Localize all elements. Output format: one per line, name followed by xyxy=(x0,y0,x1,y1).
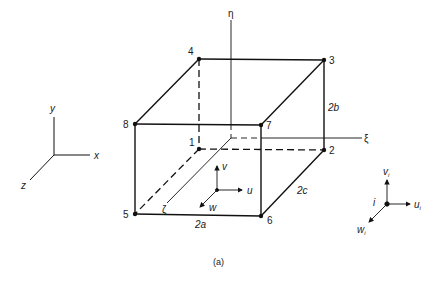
v-label: v xyxy=(222,161,228,172)
global-z-label: z xyxy=(20,180,26,191)
ui-label: ui xyxy=(414,199,422,211)
natural-axes xyxy=(231,20,362,138)
node-label-5: 5 xyxy=(123,209,129,220)
element-hidden-edges xyxy=(135,59,324,214)
hexahedral-element-figure: y x z η ξ ζ 1 xyxy=(0,0,441,285)
node-label-8: 8 xyxy=(123,119,129,130)
u-label: u xyxy=(247,185,253,196)
node-label-2: 2 xyxy=(329,145,335,156)
node-label-7: 7 xyxy=(266,120,272,131)
wi-label: wi xyxy=(357,224,366,236)
global-axes xyxy=(30,117,90,180)
node-label-4: 4 xyxy=(188,46,194,57)
node-label-6: 6 xyxy=(267,215,273,226)
node-i-label: i xyxy=(373,197,376,208)
vi-label: vi xyxy=(383,166,390,178)
w-label: w xyxy=(209,202,217,213)
node-label-1: 1 xyxy=(189,137,195,148)
natural-axes-hidden xyxy=(231,124,261,138)
interior-displacements xyxy=(200,166,242,207)
element-visible-edges xyxy=(135,59,324,216)
node-label-3: 3 xyxy=(329,55,335,66)
xi-label: ξ xyxy=(364,133,369,145)
figure-caption: (a) xyxy=(213,257,224,267)
global-y-label: y xyxy=(49,103,56,114)
zeta-label: ζ xyxy=(162,204,167,216)
dimension-2c: 2c xyxy=(296,185,308,196)
global-x-label: x xyxy=(93,150,100,161)
dimension-2b: 2b xyxy=(327,102,340,113)
eta-label: η xyxy=(228,8,234,19)
dimension-2a: 2a xyxy=(194,219,207,230)
